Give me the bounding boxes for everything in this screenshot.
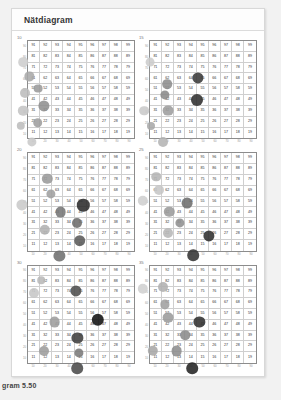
grid-cell[interactable]: 39: [244, 331, 256, 342]
grid-cell[interactable]: 51: [150, 197, 162, 208]
grid-cell[interactable]: 25: [75, 117, 87, 128]
grid-cell[interactable]: 85: [75, 276, 87, 287]
grid-cell[interactable]: 11: [150, 240, 162, 251]
grid-cell[interactable]: 36: [87, 106, 99, 117]
grid-cell[interactable]: 39: [122, 218, 134, 229]
grid-cell[interactable]: 15: [75, 240, 87, 251]
chart-panel[interactable]: 1090807060504030201010203040506070809091…: [17, 37, 137, 147]
grid-cell[interactable]: 68: [232, 73, 244, 84]
grid-cell[interactable]: 99: [122, 41, 134, 52]
grid-cell[interactable]: 87: [99, 52, 111, 63]
grid-cell[interactable]: 86: [209, 52, 221, 63]
grid-cell[interactable]: 24: [63, 341, 75, 352]
grid-cell[interactable]: 52: [40, 197, 52, 208]
grid-cell[interactable]: 61: [28, 298, 40, 309]
grid-cell[interactable]: 19: [244, 128, 256, 139]
grid-cell[interactable]: 43: [174, 207, 186, 218]
grid-cell[interactable]: 28: [232, 341, 244, 352]
grid-cell[interactable]: 74: [185, 63, 197, 74]
grid-cell[interactable]: 31: [150, 331, 162, 342]
grid-cell[interactable]: 92: [162, 153, 174, 164]
grid-cell[interactable]: 91: [150, 266, 162, 277]
grid-cell[interactable]: 26: [87, 117, 99, 128]
grid-cell[interactable]: 15: [197, 240, 209, 251]
grid-cell[interactable]: 44: [63, 95, 75, 106]
grid-cell[interactable]: 44: [63, 207, 75, 218]
grid-cell[interactable]: 11: [28, 240, 40, 251]
grid-cell[interactable]: 97: [99, 266, 111, 277]
grid-cell[interactable]: 57: [99, 197, 111, 208]
grid-cell[interactable]: 65: [197, 186, 209, 197]
grid-cell[interactable]: 93: [52, 153, 64, 164]
grid-cell[interactable]: 21: [28, 341, 40, 352]
grid-cell[interactable]: 46: [209, 207, 221, 218]
grid-cell[interactable]: 34: [185, 331, 197, 342]
grid-cell[interactable]: 79: [122, 175, 134, 186]
grid-cell[interactable]: 62: [162, 186, 174, 197]
grid-cell[interactable]: 85: [197, 164, 209, 175]
grid-cell[interactable]: 35: [75, 331, 87, 342]
grid-cell[interactable]: 75: [197, 287, 209, 298]
grid-cell[interactable]: 84: [63, 276, 75, 287]
grid-cell[interactable]: 43: [52, 207, 64, 218]
grid-cell[interactable]: 95: [197, 266, 209, 277]
grid-cell[interactable]: 44: [185, 320, 197, 331]
grid-cell[interactable]: 73: [174, 287, 186, 298]
grid-cell[interactable]: 55: [75, 197, 87, 208]
grid-cell[interactable]: 67: [99, 73, 111, 84]
grid-cell[interactable]: 69: [122, 73, 134, 84]
grid-cell[interactable]: 52: [162, 309, 174, 320]
grid-cell[interactable]: 88: [110, 164, 122, 175]
grid-cell[interactable]: 74: [63, 287, 75, 298]
grid-cell[interactable]: 35: [75, 106, 87, 117]
grid-cell[interactable]: 38: [110, 106, 122, 117]
grid-cell[interactable]: 43: [174, 320, 186, 331]
grid-cell[interactable]: 82: [162, 164, 174, 175]
grid-cell[interactable]: 56: [87, 84, 99, 95]
grid-cell[interactable]: 81: [28, 276, 40, 287]
grid-cell[interactable]: 14: [185, 352, 197, 363]
grid-cell[interactable]: 96: [87, 41, 99, 52]
grid-cell[interactable]: 17: [221, 128, 233, 139]
grid-cell[interactable]: 53: [52, 84, 64, 95]
grid-cell[interactable]: 37: [99, 106, 111, 117]
grid-cell[interactable]: 92: [40, 153, 52, 164]
grid-cell[interactable]: 47: [221, 95, 233, 106]
grid-cell[interactable]: 26: [87, 341, 99, 352]
grid-cell[interactable]: 91: [150, 153, 162, 164]
grid-cell[interactable]: 69: [244, 186, 256, 197]
grid-cell[interactable]: 58: [232, 84, 244, 95]
grid-cell[interactable]: 13: [174, 240, 186, 251]
grid-cell[interactable]: 46: [87, 320, 99, 331]
grid-cell[interactable]: 21: [28, 229, 40, 240]
grid-cell[interactable]: 33: [52, 331, 64, 342]
grid-cell[interactable]: 96: [209, 153, 221, 164]
grid-cell[interactable]: 28: [110, 341, 122, 352]
grid-cell[interactable]: 53: [174, 197, 186, 208]
grid-cell[interactable]: 97: [99, 41, 111, 52]
grid-cell[interactable]: 46: [87, 207, 99, 218]
grid-cell[interactable]: 34: [185, 218, 197, 229]
grid-cell[interactable]: 48: [110, 95, 122, 106]
grid-cell[interactable]: 53: [52, 197, 64, 208]
grid-cell[interactable]: 43: [52, 320, 64, 331]
grid-cell[interactable]: 14: [63, 240, 75, 251]
grid-cell[interactable]: 98: [232, 41, 244, 52]
grid-cell[interactable]: 76: [87, 63, 99, 74]
grid-cell[interactable]: 95: [75, 41, 87, 52]
grid-cell[interactable]: 26: [209, 341, 221, 352]
grid-cell[interactable]: 62: [40, 73, 52, 84]
grid-cell[interactable]: 93: [52, 266, 64, 277]
grid-cell[interactable]: 48: [232, 320, 244, 331]
grid-cell[interactable]: 19: [122, 240, 134, 251]
grid-cell[interactable]: 35: [197, 331, 209, 342]
grid-cell[interactable]: 73: [174, 63, 186, 74]
grid-cell[interactable]: 81: [28, 52, 40, 63]
grid-cell[interactable]: 98: [110, 41, 122, 52]
grid-cell[interactable]: 69: [244, 73, 256, 84]
grid-cell[interactable]: 81: [150, 164, 162, 175]
grid-cell[interactable]: 71: [150, 175, 162, 186]
grid-cell[interactable]: 57: [99, 309, 111, 320]
grid-cell[interactable]: 22: [40, 117, 52, 128]
grid-cell[interactable]: 68: [110, 73, 122, 84]
